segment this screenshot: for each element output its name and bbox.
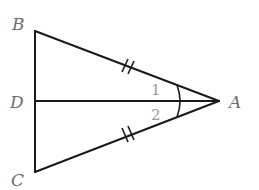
triangle-diagram: 1 2 B D C A xyxy=(0,0,259,190)
diagram-canvas: 1 2 B D C A xyxy=(0,0,259,190)
point-b-label: B xyxy=(11,14,25,34)
angle-1-label: 1 xyxy=(151,81,161,99)
segment-ac xyxy=(35,101,219,172)
equal-mark-ac xyxy=(122,126,134,142)
point-a-label: A xyxy=(227,92,241,112)
point-d-label: D xyxy=(9,92,24,112)
segment-ab xyxy=(35,31,219,101)
point-c-label: C xyxy=(11,170,24,190)
angle-2-label: 2 xyxy=(151,106,161,124)
